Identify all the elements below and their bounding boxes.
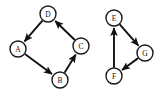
edge-c-to-d [55, 21, 75, 40]
node-f-label: F [112, 72, 116, 81]
node-f[interactable]: F [106, 68, 122, 84]
node-a-label: A [15, 45, 21, 54]
edge-b-to-c [65, 55, 76, 73]
edge-a-to-b [25, 54, 52, 74]
node-b[interactable]: B [52, 72, 68, 88]
node-d[interactable]: D [40, 6, 56, 22]
node-b-label: B [57, 76, 62, 85]
node-c-label: C [78, 42, 83, 51]
directed-graph-figure: ABCDEFG [0, 0, 163, 97]
edge-e-to-g [120, 24, 139, 45]
node-e[interactable]: E [106, 10, 122, 26]
edge-g-to-f [122, 58, 138, 70]
node-c[interactable]: C [73, 38, 89, 54]
node-g[interactable]: G [137, 45, 153, 61]
nodes-layer: ABCDEFG [10, 6, 153, 88]
edge-d-to-a [25, 21, 43, 42]
node-g-label: G [142, 49, 148, 58]
node-a[interactable]: A [10, 41, 26, 57]
node-d-label: D [45, 10, 51, 19]
node-e-label: E [112, 14, 117, 23]
